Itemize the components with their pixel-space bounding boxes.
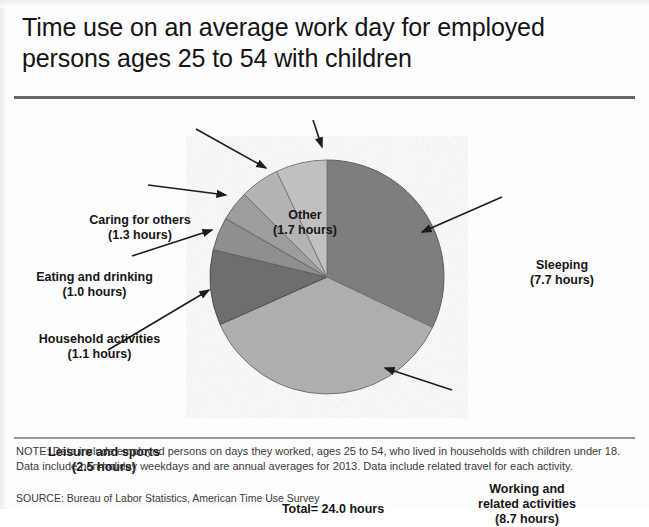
callout-other: Other (1.7 hours) [245,208,365,238]
callout-other-name: Other [288,208,321,222]
note-divider [14,437,635,439]
title-divider [14,96,635,99]
callout-eating-name: Eating and drinking [36,270,153,284]
arrow-other [313,120,322,147]
arrow-eating [148,185,226,195]
callout-household-value: (1.1 hours) [12,347,187,362]
page-title: Time use on an average work day for empl… [22,12,630,74]
callout-caring-for-others: Caring for others (1.3 hours) [60,213,220,243]
callout-sleeping: Sleeping (7.7 hours) [492,258,632,288]
callout-working-value: (8.7 hours) [442,512,612,527]
callout-eating-value: (1.0 hours) [12,285,177,300]
chart-source: SOURCE: Bureau of Labor Statistics, Amer… [16,492,634,505]
callout-sleeping-value: (7.7 hours) [492,273,632,288]
callout-caring-name: Caring for others [89,213,190,227]
arrow-caring [196,129,266,168]
arrow-working [385,368,452,390]
callout-eating-and-drinking: Eating and drinking (1.0 hours) [12,270,177,300]
callout-other-value: (1.7 hours) [245,223,365,238]
pie-chart-area: Caring for others (1.3 hours) Eating and… [0,100,649,436]
scan-top-artifact [0,0,649,8]
pie-slices [210,160,444,394]
callout-household-name: Household activities [39,332,161,346]
arrow-sleeping [422,197,502,232]
callout-household-activities: Household activities (1.1 hours) [12,332,187,362]
callout-caring-value: (1.3 hours) [60,228,220,243]
callout-sleeping-name: Sleeping [536,258,588,272]
chart-note: NOTE: Data include employed persons on d… [16,444,634,473]
